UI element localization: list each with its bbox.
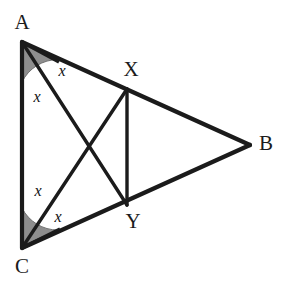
- angle-label-a-upper: x: [57, 62, 65, 79]
- angle-label-a-lower: x: [32, 88, 40, 105]
- angle-label-c-lower: x: [53, 208, 61, 225]
- angle-label-c-upper: x: [33, 182, 41, 199]
- geometry-canvas: A B C X Y x x x x: [0, 0, 284, 286]
- vertex-label-C: C: [15, 254, 29, 278]
- geometry-figure: A B C X Y x x x x: [0, 0, 284, 286]
- point-label-Y: Y: [125, 209, 140, 233]
- vertex-label-B: B: [259, 131, 273, 155]
- point-label-X: X: [123, 57, 138, 81]
- vertex-label-A: A: [14, 10, 30, 34]
